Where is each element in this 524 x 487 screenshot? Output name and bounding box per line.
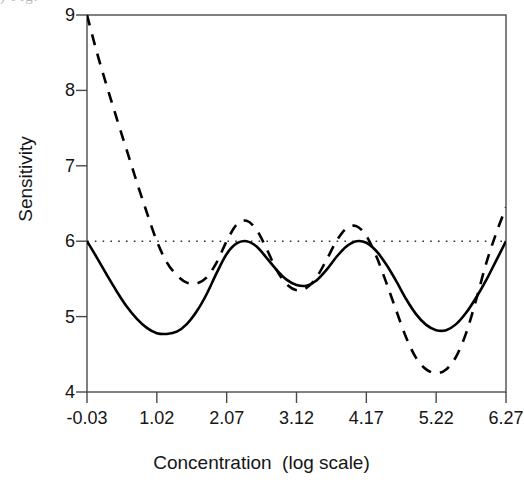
y-tick-label-5: 9: [45, 5, 75, 26]
y-tick-label-1: 5: [45, 306, 75, 327]
plot-frame: [87, 15, 506, 392]
y-tick-label-3: 7: [45, 155, 75, 176]
x-tick-label-3: 3.12: [279, 408, 314, 429]
x-tick-label-5: 5.22: [419, 408, 454, 429]
x-tick-label-6: 6.27: [488, 408, 523, 429]
y-tick-label-2: 6: [45, 231, 75, 252]
y-tick-label-0: 4: [45, 382, 75, 403]
series-line-1: [87, 15, 506, 373]
x-tick-label-1: 1.02: [139, 408, 174, 429]
series-line-0: [87, 241, 506, 334]
x-tick-label-4: 4.17: [349, 408, 384, 429]
x-tick-label-2: 2.07: [209, 408, 244, 429]
y-axis-title: Sensitivity: [15, 109, 37, 249]
x-tick-label-0: -0.03: [66, 408, 107, 429]
x-axis-title: Concentration (log scale): [0, 452, 523, 474]
y-tick-label-4: 8: [45, 80, 75, 101]
